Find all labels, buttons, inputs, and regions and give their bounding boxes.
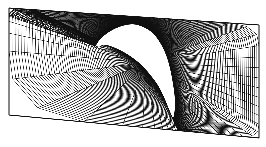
mesh-figure [0,0,266,147]
cfd-mesh-canvas [0,0,266,147]
